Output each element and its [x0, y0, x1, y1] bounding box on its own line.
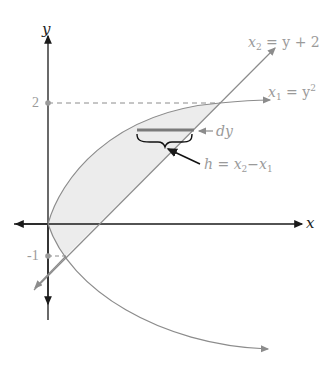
- height-eq-sub2: 1: [267, 164, 273, 174]
- line-curve-tail: [35, 256, 66, 288]
- line-eq-var: x: [248, 34, 256, 50]
- parabola-eq-var: x: [268, 84, 276, 100]
- line-eq-rhs: = y + 2: [262, 34, 320, 50]
- h-pointer-arrow: [168, 149, 200, 164]
- dy-label: dy: [216, 124, 233, 138]
- height-eq-mid: −x: [247, 156, 267, 172]
- parabola-equation-label: x1 = y2: [268, 84, 316, 102]
- y-neg1-tick-dot: [45, 253, 51, 259]
- parabola-eq-sup: 2: [310, 83, 316, 93]
- x-axis-label: x: [306, 216, 314, 231]
- y-tick-2: 2: [32, 96, 39, 110]
- y2-tick-dot: [45, 100, 51, 106]
- parabola-eq-rhs: = y: [282, 84, 311, 100]
- y-tick-neg1: -1: [27, 249, 39, 263]
- line-equation-label: x2 = y + 2: [248, 35, 320, 52]
- height-label: h = x2−x1: [204, 157, 273, 174]
- height-eq-lhs: h = x: [204, 156, 242, 172]
- area-between-curves-diagram: y x 2 -1 x2 = y + 2 x1 = y2 dy h = x2−x1: [0, 0, 327, 371]
- y-axis-label: y: [42, 22, 50, 37]
- diagram-canvas: [0, 0, 327, 371]
